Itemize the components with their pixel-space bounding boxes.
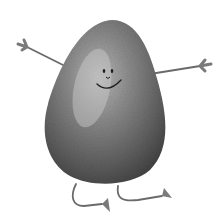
left-eye xyxy=(103,69,106,73)
avocado-character-illustration xyxy=(0,0,224,222)
left-leg xyxy=(73,184,110,212)
right-arm xyxy=(150,60,211,74)
right-leg xyxy=(118,186,172,200)
right-eye xyxy=(111,69,114,73)
